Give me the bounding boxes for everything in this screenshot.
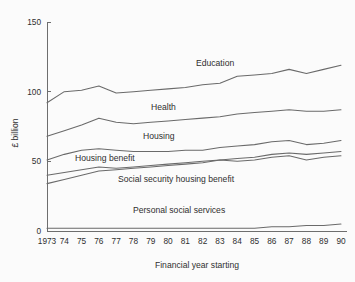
- y-tick-label: 150: [27, 17, 41, 27]
- chart-series-lines: [47, 65, 341, 228]
- x-tick-label: 75: [77, 236, 87, 246]
- x-tick-label: 78: [129, 236, 139, 246]
- chart-series-labels: EducationHealthHousingHousing benefitSoc…: [75, 58, 235, 215]
- line-chart: 050100150 197374757677787980818283848586…: [0, 0, 355, 282]
- x-tick-label: 84: [233, 236, 243, 246]
- series-label-housing-benefit: Housing benefit: [75, 153, 135, 163]
- x-tick-label: 86: [267, 236, 277, 246]
- y-tick-label: 0: [36, 226, 41, 236]
- series-line-education: [47, 65, 341, 103]
- series-label-personal-social-services: Personal social services: [133, 205, 225, 215]
- y-axis-title: £ billion: [10, 118, 20, 147]
- x-tick-label: 82: [198, 236, 208, 246]
- chart-axes: [47, 22, 347, 231]
- x-tick-label: 74: [60, 236, 70, 246]
- x-tick-label: 1973: [38, 236, 57, 246]
- series-line-personal-social-services: [47, 224, 341, 228]
- x-tick-label: 81: [181, 236, 191, 246]
- y-tick-label: 50: [32, 156, 42, 166]
- x-tick-label: 85: [250, 236, 260, 246]
- series-label-education: Education: [196, 58, 234, 68]
- x-axis-title: Financial year starting: [155, 260, 239, 270]
- x-tick-label: 83: [215, 236, 225, 246]
- x-tick-label: 90: [336, 236, 346, 246]
- x-tick-label: 77: [112, 236, 122, 246]
- x-axis-ticks: 19737475767778798081828384858687888990: [38, 236, 346, 246]
- x-tick-label: 88: [302, 236, 312, 246]
- chart-figure: 050100150 197374757677787980818283848586…: [0, 0, 355, 282]
- axis-spines: [47, 22, 347, 231]
- x-tick-label: 87: [285, 236, 295, 246]
- series-label-health: Health: [151, 102, 176, 112]
- x-tick-label: 76: [94, 236, 104, 246]
- series-label-social-security-housing-benefit: Social security housing benefit: [118, 174, 235, 184]
- series-line-health: [47, 110, 341, 136]
- x-tick-label: 89: [319, 236, 329, 246]
- x-tick-label: 79: [146, 236, 156, 246]
- y-tick-label: 100: [27, 87, 41, 97]
- series-label-housing: Housing: [143, 131, 175, 141]
- x-tick-label: 80: [163, 236, 173, 246]
